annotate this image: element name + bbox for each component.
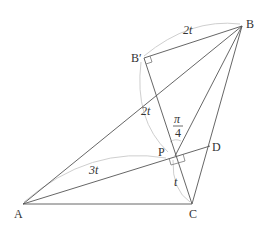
label-p: P xyxy=(158,145,165,159)
label-a: A xyxy=(14,207,23,221)
geometry-diagram: B B′ A C D P 2t 2t 3t t π 4 xyxy=(0,0,268,229)
diagram-svg: B B′ A C D P 2t 2t 3t t π 4 xyxy=(0,0,268,229)
segment-bprime-b xyxy=(144,26,242,58)
label-bprime: B′ xyxy=(131,51,142,65)
dimension-arcs xyxy=(24,23,240,202)
segment-bp xyxy=(175,26,242,156)
label-d: D xyxy=(212,140,221,154)
angle-denominator: 4 xyxy=(175,126,181,140)
segment-bc xyxy=(192,26,242,204)
angle-numerator: π xyxy=(174,112,181,126)
measure-bprime-b: 2t xyxy=(183,23,193,37)
label-c: C xyxy=(189,207,197,221)
measure-bprime-p: 2t xyxy=(141,104,151,118)
label-b: B xyxy=(246,17,254,31)
measure-a-p: 3t xyxy=(88,163,99,177)
